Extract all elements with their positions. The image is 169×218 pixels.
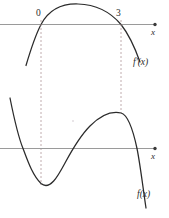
top-x-axis-arrow-icon	[153, 23, 156, 26]
bottom-x-axis-label: x	[151, 152, 155, 161]
function-curve	[10, 98, 146, 208]
tick-label-0: 0	[36, 9, 41, 19]
graph-figure: 0 3 x f'(x) x f(x)	[0, 0, 169, 218]
tick-label-3: 3	[116, 9, 121, 19]
function-panel	[0, 98, 157, 208]
bottom-x-axis-arrow-icon	[153, 147, 156, 150]
dashed-guides	[41, 20, 121, 185]
scan-speck	[72, 120, 74, 122]
derivative-curve	[26, 4, 140, 66]
function-curve-label: f(x)	[137, 190, 150, 200]
top-x-axis-label: x	[151, 28, 155, 37]
derivative-curve-label: f'(x)	[133, 58, 148, 68]
graph-canvas	[0, 0, 169, 218]
